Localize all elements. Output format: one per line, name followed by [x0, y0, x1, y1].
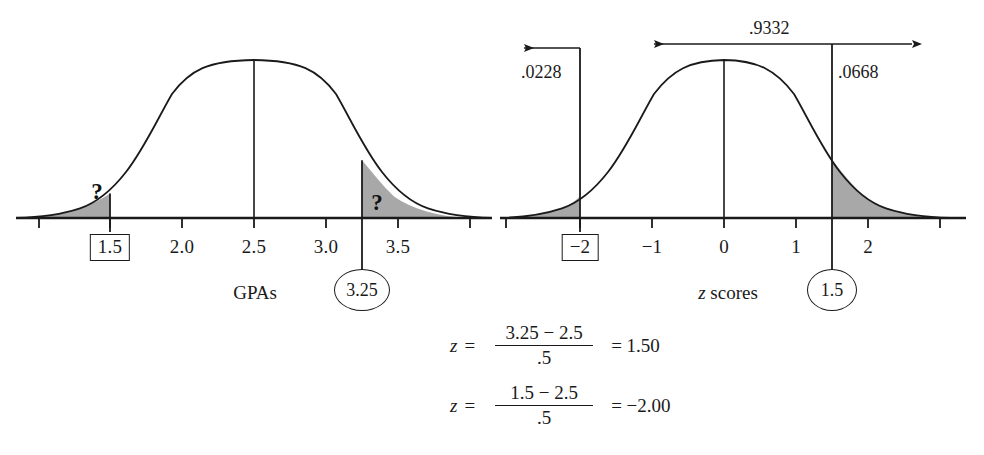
left-chart-circled-callout-3-25: 3.25	[334, 269, 390, 311]
statistics-figure: ? ? 1.5 2.0 2.5 3.0 3.5 GPAs 3.25 .0228 …	[0, 0, 984, 455]
right-chart-right-tail-area-label: .0668	[838, 62, 879, 83]
left-chart-tick-2-5: 2.5	[242, 236, 266, 258]
equation-1-denominator: .5	[529, 346, 559, 369]
equation-1-fraction: 3.25 − 2.5 .5	[495, 322, 593, 369]
equation-2-variable: z	[450, 395, 457, 417]
right-chart-middle-area-label: .9332	[749, 18, 790, 39]
equation-1-numerator: 3.25 − 2.5	[498, 322, 591, 345]
equation-z-for-3-25: z = 3.25 − 2.5 .5 = 1.50	[450, 322, 660, 369]
equation-1-equals-sign: =	[464, 335, 475, 357]
right-chart-normal-curve	[500, 60, 950, 218]
right-chart-tick-0: 0	[719, 236, 729, 258]
left-chart-left-tail-question-mark: ?	[91, 179, 103, 205]
right-chart-circled-callout-1-5: 1.5	[807, 269, 857, 311]
left-chart-right-tail-question-mark: ?	[371, 190, 383, 216]
equation-2-denominator: .5	[529, 406, 559, 429]
right-chart-tick-1: 1	[791, 236, 801, 258]
left-chart-tick-3-0: 3.0	[314, 236, 338, 258]
right-chart-tick-2: 2	[863, 236, 873, 258]
right-chart-tick-marks	[506, 218, 940, 228]
right-chart-tick-minus-1: −1	[642, 236, 663, 258]
left-chart-tick-3-5: 3.5	[386, 236, 410, 258]
right-chart-left-tail-area-label: .0228	[521, 62, 562, 83]
right-chart-axis-label-rest: scores	[706, 282, 758, 303]
equation-2-equals-sign: =	[464, 395, 475, 417]
left-chart-tick-2-0: 2.0	[170, 236, 194, 258]
equation-1-variable: z	[450, 335, 457, 357]
left-chart-boxed-tick-1-5: 1.5	[90, 234, 130, 261]
equation-z-for-1-5: z = 1.5 − 2.5 .5 = −2.00	[450, 382, 671, 429]
equation-1-result: = 1.50	[611, 335, 660, 357]
equation-2-numerator: 1.5 − 2.5	[502, 382, 586, 405]
right-chart-axis-label: z scores	[698, 282, 758, 304]
equation-2-fraction: 1.5 − 2.5 .5	[495, 382, 593, 429]
right-chart-boxed-tick-minus-2: −2	[562, 234, 599, 261]
left-chart-tick-marks	[39, 218, 470, 228]
equation-2-result: = −2.00	[611, 395, 670, 417]
left-chart-axis-label: GPAs	[233, 282, 277, 304]
